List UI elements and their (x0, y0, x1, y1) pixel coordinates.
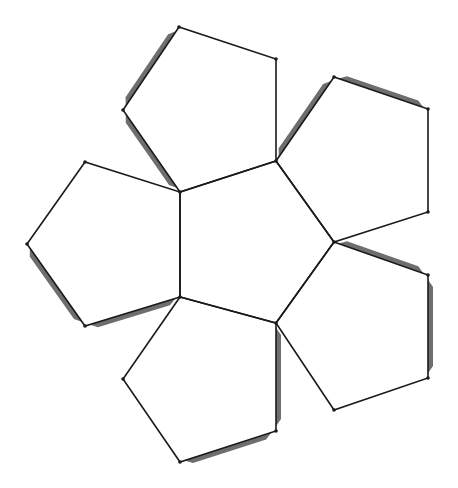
vertex-dot (332, 408, 336, 412)
vertex-dot (274, 159, 278, 163)
vertex-dot (83, 160, 87, 164)
dodecahedron-net-diagram (0, 0, 458, 488)
pentagon-faces (27, 27, 428, 462)
vertex-dot (178, 190, 182, 194)
vertex-dot (274, 321, 278, 325)
vertex-dot (121, 108, 125, 112)
pentagon-left (27, 162, 180, 326)
pentagon-bottom (123, 297, 276, 462)
vertex-dot (274, 57, 278, 61)
vertex-dot (332, 240, 336, 244)
vertex-dot (426, 376, 430, 380)
glue-tabs (30, 31, 433, 463)
pentagon-upper-right (276, 77, 428, 242)
vertex-dot (426, 273, 430, 277)
pentagon-lower-right (276, 242, 428, 410)
vertex-dot (121, 377, 125, 381)
vertex-dot (83, 324, 87, 328)
vertex-dot (274, 429, 278, 433)
pentagon-top (123, 27, 276, 192)
vertex-dot (426, 210, 430, 214)
vertex-dot (426, 107, 430, 111)
vertex-dot (178, 295, 182, 299)
vertex-dot (332, 75, 336, 79)
vertex-dot (178, 460, 182, 464)
vertex-dot (177, 25, 181, 29)
vertex-dot (25, 242, 29, 246)
